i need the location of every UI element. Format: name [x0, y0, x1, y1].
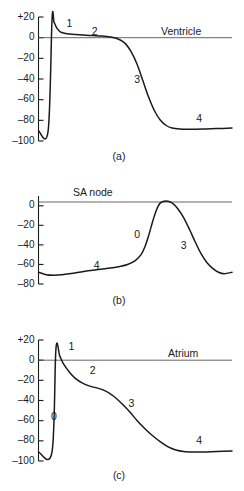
phase-label-3: 3	[134, 73, 140, 85]
phase-label-4: 4	[94, 259, 100, 271]
phase-label-2: 2	[90, 364, 96, 376]
panel-caption-c: (c)	[113, 469, 125, 481]
phase-label-4: 4	[196, 112, 202, 124]
phase-label-4: 4	[196, 434, 202, 446]
y-axis-tick-label: –100	[12, 135, 35, 146]
y-axis-tick-label: +20	[18, 334, 35, 345]
y-axis-tick-label: –60	[18, 414, 35, 425]
y-axis-tick-label: 0	[29, 354, 35, 365]
y-axis-tick-label: –60	[18, 258, 35, 269]
sa-node-axis-group: 0–20–40–60–80	[18, 196, 44, 289]
y-axis-tick-label: –80	[18, 114, 35, 125]
y-axis-tick-label: –100	[12, 455, 35, 466]
phase-label-0: 0	[134, 228, 140, 240]
y-axis-tick-label: –20	[18, 374, 35, 385]
phase-annotations: 403	[94, 228, 187, 271]
panel-sa-node: 0–20–40–60–80 403 SA node (b)	[0, 165, 244, 320]
phase-label-3: 3	[181, 239, 187, 251]
y-axis-tick-label: 0	[29, 31, 35, 42]
sa-node-chart-svg: 0–20–40–60–80 403 SA node (b)	[0, 165, 244, 320]
atrium-axis-group: +200–20–40–60–80–100	[12, 334, 43, 466]
series-label-sa-node: SA node	[73, 186, 113, 198]
y-axis-tick-label: 0	[29, 199, 35, 210]
y-axis-tick-label: –20	[18, 52, 35, 63]
y-axis-tick-labels: +200–20–40–60–80–100	[12, 11, 35, 146]
y-axis-tick-label: –40	[18, 394, 35, 405]
y-axis-tick-label: –60	[18, 93, 35, 104]
series-label-atrium: Atrium	[168, 347, 199, 359]
panel-caption-a: (a)	[113, 150, 126, 162]
phase-label-3: 3	[128, 397, 134, 409]
series-label-ventricle: Ventricle	[161, 25, 201, 37]
panel-ventricle: +200–20–40–60–80–100 1234 Ventricle (a)	[0, 0, 244, 165]
y-axis-tick-label: –40	[18, 239, 35, 250]
cardiac-action-potential-figure: +200–20–40–60–80–100 1234 Ventricle (a) …	[0, 0, 244, 491]
y-axis-tick-label: –80	[18, 434, 35, 445]
phase-label-0: 0	[51, 410, 57, 422]
panel-atrium: +200–20–40–60–80–100 01234 Atrium (c)	[0, 320, 244, 491]
ventricle-chart-svg: +200–20–40–60–80–100 1234 Ventricle (a)	[0, 0, 244, 165]
y-axis-ticks	[39, 17, 44, 141]
phase-label-2: 2	[92, 25, 98, 37]
y-axis-tick-label: –80	[18, 278, 35, 289]
panel-caption-b: (b)	[113, 294, 126, 306]
y-axis-tick-labels: +200–20–40–60–80–100	[12, 334, 35, 466]
phase-label-1: 1	[67, 17, 73, 29]
phase-label-1: 1	[68, 340, 74, 352]
atrium-chart-svg: +200–20–40–60–80–100 01234 Atrium (c)	[0, 320, 244, 491]
y-axis-tick-label: –40	[18, 73, 35, 84]
y-axis-tick-labels: 0–20–40–60–80	[18, 199, 35, 288]
y-axis-tick-label: +20	[18, 11, 35, 22]
y-axis-tick-label: –20	[18, 219, 35, 230]
y-axis-ticks	[39, 340, 44, 461]
ventricle-axis-group: +200–20–40–60–80–100	[12, 11, 43, 146]
